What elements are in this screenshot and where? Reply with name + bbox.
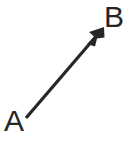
point-label-b: B xyxy=(104,2,124,32)
vector-diagram-figure: A B xyxy=(0,0,128,147)
point-label-a: A xyxy=(4,106,24,136)
